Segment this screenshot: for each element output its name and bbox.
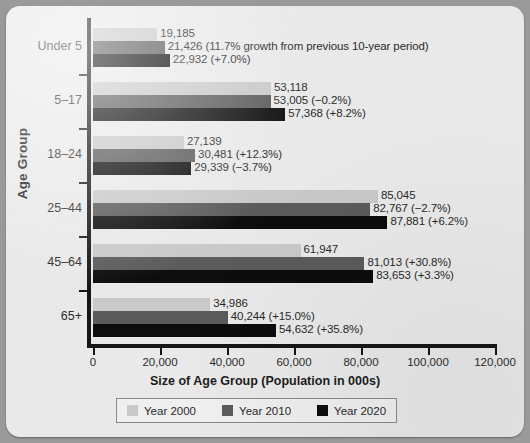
bar-year-2010[interactable] xyxy=(93,41,165,54)
bar-group: 19,18521,426 (11.7% growth from previous… xyxy=(93,28,495,67)
bar-year-2020[interactable] xyxy=(93,162,191,175)
x-axis-tick-label: 120,000 xyxy=(460,356,524,368)
bar-value-label: 85,045 xyxy=(381,189,416,202)
bar-value-label: 34,986 xyxy=(213,297,248,310)
x-axis-tick xyxy=(361,348,363,355)
legend-label: Year 2000 xyxy=(144,405,196,417)
legend-item[interactable]: Year 2000 xyxy=(127,405,196,417)
bar-year-2000[interactable] xyxy=(93,136,184,149)
x-axis-tick xyxy=(160,348,162,355)
bar-value-label: 29,339 (−3.7%) xyxy=(194,161,272,174)
bar-group: 34,98640,244 (+15.0%)54,632 (+35.8%) xyxy=(93,298,495,337)
bar-year-2020[interactable] xyxy=(93,108,285,121)
bar-year-2020[interactable] xyxy=(93,216,387,229)
bar-group: 53,11853,005 (−0.2%)57,368 (+8.2%) xyxy=(93,82,495,121)
bar-value-label: 57,368 (+8.2%) xyxy=(288,107,366,120)
bar-group: 27,13930,481 (+12.3%)29,339 (−3.7%) xyxy=(93,136,495,175)
y-axis-tick xyxy=(79,182,88,184)
x-axis-tick-label: 100,000 xyxy=(393,356,463,368)
y-axis-category-label: 5–17 xyxy=(10,93,82,107)
y-axis-tick xyxy=(79,74,88,76)
bar-year-2000[interactable] xyxy=(93,28,157,41)
x-axis-line xyxy=(87,344,497,348)
bar-year-2010[interactable] xyxy=(93,149,195,162)
bar-year-2000[interactable] xyxy=(93,82,271,95)
y-axis-category-label: 45–64 xyxy=(10,255,82,269)
bar-value-label: 87,881 (+6.2%) xyxy=(390,215,468,228)
legend-label: Year 2010 xyxy=(239,405,291,417)
bar-value-label: 30,481 (+12.3%) xyxy=(198,148,282,161)
bar-year-2010[interactable] xyxy=(93,257,364,270)
bar-year-2020[interactable] xyxy=(93,324,276,337)
legend-label: Year 2020 xyxy=(334,405,386,417)
x-axis-tick-label: 0 xyxy=(58,356,128,368)
y-axis-tick xyxy=(79,236,88,238)
bar-year-2000[interactable] xyxy=(93,298,210,311)
y-axis-category-label: Under 5 xyxy=(10,39,82,53)
y-axis-tick xyxy=(79,290,88,292)
bar-year-2020[interactable] xyxy=(93,270,373,283)
bar-year-2010[interactable] xyxy=(93,311,228,324)
y-axis-tick xyxy=(79,128,88,130)
bar-value-label: 83,653 (+3.3%) xyxy=(376,269,454,282)
x-axis-tick xyxy=(227,348,229,355)
y-axis-category-labels: Under 55–1718–2425–4445–6465+ xyxy=(6,20,82,344)
chart-legend: Year 2000Year 2010Year 2020 xyxy=(116,398,397,423)
bar-value-label: 53,118 xyxy=(274,81,308,94)
bar-year-2000[interactable] xyxy=(93,190,378,203)
x-axis-tick-label: 60,000 xyxy=(259,356,329,368)
legend-swatch-icon xyxy=(317,405,328,416)
bar-value-label: 54,632 (+35.8%) xyxy=(279,323,363,336)
bar-year-2010[interactable] xyxy=(93,203,370,216)
plot-area: 19,18521,426 (11.7% growth from previous… xyxy=(93,20,495,344)
bar-value-label: 82,767 (−2.7%) xyxy=(373,202,451,215)
x-axis-title: Size of Age Group (Population in 000s) xyxy=(6,374,524,388)
bar-group: 85,04582,767 (−2.7%)87,881 (+6.2%) xyxy=(93,190,495,229)
x-axis-tick xyxy=(428,348,430,355)
legend-swatch-icon xyxy=(222,405,233,416)
bar-value-label: 61,947 xyxy=(304,243,339,256)
bar-year-2020[interactable] xyxy=(93,54,170,67)
y-axis-category-label: 25–44 xyxy=(10,201,82,215)
x-axis-tick-label: 20,000 xyxy=(125,356,195,368)
y-axis-category-label: 18–24 xyxy=(10,147,82,161)
bar-group: 61,94781,013 (+30.8%)83,653 (+3.3%) xyxy=(93,244,495,283)
bar-value-label: 40,244 (+15.0%) xyxy=(231,310,315,323)
bar-year-2010[interactable] xyxy=(93,95,271,108)
x-axis-tick-label: 80,000 xyxy=(326,356,396,368)
legend-item[interactable]: Year 2010 xyxy=(222,405,291,417)
x-axis-tick xyxy=(294,348,296,355)
y-axis-category-label: 65+ xyxy=(10,309,82,323)
bar-year-2000[interactable] xyxy=(93,244,301,257)
bar-value-label: 19,185 xyxy=(160,27,195,40)
bar-value-label: 22,932 (+7.0%) xyxy=(173,53,251,66)
bar-value-label: 27,139 xyxy=(187,135,222,148)
chart-frame: Age Group Under 55–1718–2425–4445–6465+ … xyxy=(6,6,524,437)
x-axis-tick xyxy=(495,348,497,355)
legend-item[interactable]: Year 2020 xyxy=(317,405,386,417)
x-axis-tick-label: 40,000 xyxy=(192,356,262,368)
legend-swatch-icon xyxy=(127,405,138,416)
bar-value-label: 81,013 (+30.8%) xyxy=(367,256,451,269)
x-axis-tick xyxy=(93,348,95,355)
bar-value-label: 53,005 (−0.2%) xyxy=(274,94,352,107)
bar-value-label: 21,426 (11.7% growth from previous 10-ye… xyxy=(168,40,429,53)
